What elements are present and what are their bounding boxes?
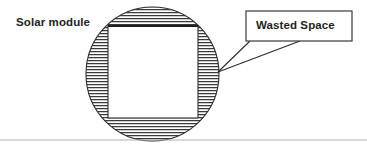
wasted-space-label: Wasted Space bbox=[256, 18, 335, 32]
figure-canvas: Solar module Wasted Space bbox=[0, 0, 367, 146]
solar-cell-square bbox=[108, 26, 198, 118]
callout-leader-lines bbox=[218, 41, 300, 72]
solar-module-label: Solar module bbox=[16, 15, 90, 29]
